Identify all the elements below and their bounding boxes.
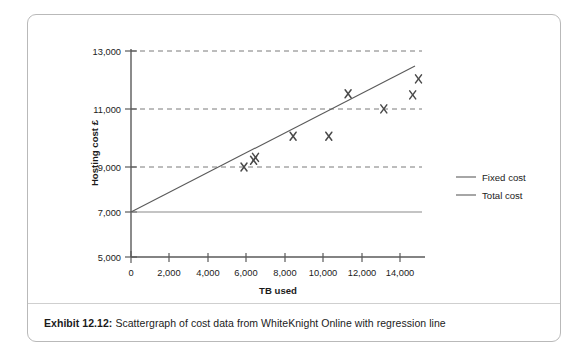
y-tick-label-7000: 7,000 — [98, 208, 121, 218]
x-tick-label-4000: 4,000 — [196, 268, 219, 278]
y-tick-label-11000: 11,000 — [93, 105, 121, 115]
legend-label-fixed-cost: Fixed cost — [482, 172, 526, 183]
exhibit-card: 13,000 11,000 9,000 7,000 5,000 0 2,000 … — [27, 14, 561, 342]
x-tick-label-10000: 10,000 — [309, 268, 337, 278]
exhibit-caption: Exhibit 12.12: Scattergraph of cost data… — [28, 317, 446, 329]
scatter-markers — [241, 75, 422, 171]
scatter-point — [345, 90, 351, 98]
legend-label-total-cost: Total cost — [482, 190, 523, 201]
x-axis-title: TB used — [259, 285, 297, 296]
total-cost-regression-line — [131, 66, 415, 212]
chart-legend: Fixed cost Total cost — [456, 172, 526, 201]
scatter-point — [326, 132, 332, 140]
x-tick-label-6000: 6,000 — [234, 268, 257, 278]
exhibit-caption-body: Scattergraph of cost data from WhiteKnig… — [115, 317, 445, 329]
x-tick-label-0: 0 — [128, 268, 133, 278]
y-tick-label-5000: 5,000 — [98, 253, 121, 263]
scatter-point — [253, 153, 259, 161]
y-tick-label-13000: 13,000 — [93, 47, 121, 57]
caption-bar: Exhibit 12.12: Scattergraph of cost data… — [28, 304, 560, 341]
scatter-point — [416, 75, 422, 83]
y-tick-label-9000: 9,000 — [98, 163, 121, 173]
legend-item-fixed-cost[interactable]: Fixed cost — [456, 172, 526, 183]
scattergraph: 13,000 11,000 9,000 7,000 5,000 0 2,000 … — [28, 15, 560, 303]
x-tick-label-12000: 12,000 — [348, 268, 376, 278]
scatter-point — [290, 132, 296, 140]
gridlines — [131, 51, 422, 167]
y-axis-title: Hosting cost £ — [89, 119, 100, 186]
exhibit-caption-label: Exhibit 12.12: — [44, 317, 112, 329]
x-tick-label-8000: 8,000 — [273, 268, 296, 278]
x-tick-label-2000: 2,000 — [157, 268, 180, 278]
scatter-point — [410, 91, 416, 99]
figure-area: 13,000 11,000 9,000 7,000 5,000 0 2,000 … — [28, 15, 560, 303]
x-tick-label-14000: 14,000 — [386, 268, 414, 278]
legend-item-total-cost[interactable]: Total cost — [456, 190, 523, 201]
